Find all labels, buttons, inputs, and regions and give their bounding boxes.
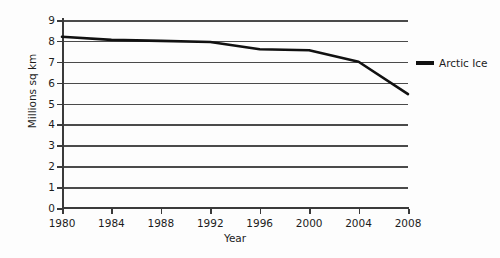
y-axis-line bbox=[62, 18, 64, 210]
y-tick-mark bbox=[57, 83, 62, 85]
plot-area bbox=[62, 20, 408, 208]
gridline bbox=[62, 62, 408, 64]
gridline bbox=[62, 83, 408, 85]
y-tick-mark bbox=[57, 187, 62, 189]
y-tick-mark bbox=[57, 20, 62, 22]
x-tick-mark bbox=[408, 209, 410, 214]
x-axis-title: Year bbox=[62, 232, 408, 244]
y-tick-mark bbox=[57, 62, 62, 64]
x-tick-mark bbox=[210, 209, 212, 214]
x-tick-mark bbox=[359, 209, 361, 214]
y-tick-label: 0 bbox=[31, 202, 55, 214]
legend-line-swatch-icon bbox=[416, 61, 434, 65]
gridline bbox=[62, 41, 408, 43]
x-tick-mark bbox=[62, 209, 64, 214]
y-tick-mark bbox=[57, 104, 62, 106]
gridline bbox=[62, 104, 408, 106]
x-tick-mark bbox=[111, 209, 113, 214]
chart-container: 0123456789 19801984198819921996200020042… bbox=[0, 0, 500, 258]
y-tick-mark bbox=[57, 124, 62, 126]
legend-label-arctic-ice: Arctic Ice bbox=[439, 57, 488, 69]
x-axis-line bbox=[62, 207, 409, 209]
x-tick-mark bbox=[309, 209, 311, 214]
y-axis-title: Millions sq km bbox=[26, 31, 38, 151]
chart-legend: Arctic Ice bbox=[416, 57, 488, 69]
y-tick-mark bbox=[57, 145, 62, 147]
gridline bbox=[62, 166, 408, 168]
gridline bbox=[62, 145, 408, 147]
y-tick-label: 1 bbox=[31, 181, 55, 193]
x-tick-mark bbox=[161, 209, 163, 214]
gridline bbox=[62, 187, 408, 189]
y-tick-mark bbox=[57, 41, 62, 43]
y-tick-label: 9 bbox=[31, 14, 55, 26]
y-tick-label: 2 bbox=[31, 160, 55, 172]
x-tick-label: 2008 bbox=[378, 217, 438, 229]
y-tick-mark bbox=[57, 166, 62, 168]
x-tick-mark bbox=[260, 209, 262, 214]
gridline bbox=[62, 20, 408, 22]
gridline bbox=[62, 124, 408, 126]
